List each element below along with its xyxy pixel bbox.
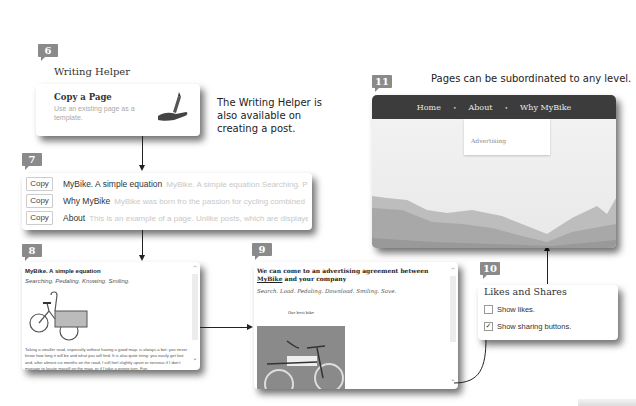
show-likes-option[interactable]: Show likes. [484, 305, 535, 314]
advertising-title-text: We can come to an advertising agreement … [257, 267, 428, 274]
show-sharing-label: Show sharing buttons. [497, 322, 571, 331]
nav-separator: • [453, 104, 457, 111]
copy-page-option-title[interactable]: Copy a Page [54, 92, 112, 102]
step-badge-9: 9 [252, 243, 272, 256]
copy-button[interactable]: Copy [26, 211, 53, 225]
copy-row: Copy About This is an example of a page.… [26, 210, 308, 226]
image-caption: Our best bike [257, 310, 345, 315]
advertising-title-text-end: and your company [282, 275, 346, 282]
step-badge-11: 11 [372, 75, 392, 88]
mountains-image [372, 188, 616, 248]
connector-6-7 [142, 136, 143, 166]
advertising-subtitle: Search. Load. Pedaling. Download. Smilin… [257, 288, 396, 294]
show-sharing-checkbox[interactable]: ✓ [484, 322, 493, 331]
advertising-preview-panel: We can come to an advertising agreement … [254, 262, 458, 389]
writing-helper-callout: The Writing Helper is also available on … [217, 96, 337, 135]
preview-subtitle: Searching. Pedaling. Knowing. Smiling. [25, 278, 130, 284]
hand-pencil-icon[interactable] [154, 90, 190, 124]
writing-helper-title: Writing Helper [54, 66, 130, 77]
arrow-7-8 [139, 255, 145, 261]
page-excerpt: MyBike. A simple equation Searching. Ped… [166, 180, 308, 189]
copy-page-option-desc: Use an existing page as a template. [54, 104, 136, 122]
page-excerpt: MyBike was born fro the passion for cycl… [114, 197, 305, 206]
connector-7-8 [142, 230, 143, 256]
show-sharing-option[interactable]: ✓ Show sharing buttons. [484, 322, 571, 331]
scroll-up-arrow[interactable]: ^ [450, 266, 456, 273]
likes-shares-panel: Likes and Shares Show likes. ✓ Show shar… [478, 285, 618, 340]
about-submenu: Advertising [464, 119, 550, 155]
page-preview-panel: MyBike. A simple equation Searching. Ped… [22, 262, 200, 370]
arrow-6-7 [139, 165, 145, 171]
page-title: Why MyBike [63, 196, 110, 206]
step-badge-10: 10 [480, 262, 500, 275]
nav-about[interactable]: About [468, 103, 492, 112]
nav-why-mybike[interactable]: Why MyBike [520, 103, 571, 112]
vintage-bike-image [257, 326, 345, 389]
show-likes-label: Show likes. [497, 305, 535, 314]
page-title: MyBike. A simple equation [63, 179, 162, 189]
connector-10-11 [547, 250, 548, 284]
nav-separator: • [505, 104, 509, 111]
likes-shares-title: Likes and Shares [484, 286, 567, 297]
copy-page-list: Copy MyBike. A simple equation MyBike. A… [22, 173, 312, 230]
scroll-up-arrow[interactable]: ^ [192, 264, 198, 271]
preview-title: MyBike. A simple equation [25, 268, 101, 274]
cargo-bike-image [25, 289, 93, 344]
copy-row: Copy Why MyBike MyBike was born fro the … [26, 193, 308, 209]
page-title: About [63, 213, 85, 223]
mybike-link[interactable]: MyBike [257, 275, 282, 282]
writing-helper-panel: Copy a Page Use an existing page as a te… [36, 84, 200, 136]
scrollbar-thumb[interactable] [192, 274, 198, 340]
scroll-down-arrow[interactable]: ⌄ [192, 354, 198, 361]
advertising-title: We can come to an advertising agreement … [257, 267, 437, 283]
copy-row: Copy MyBike. A simple equation MyBike. A… [26, 176, 308, 192]
site-nav-bar: Home • About • Why MyBike [372, 95, 616, 119]
step-badge-7: 7 [22, 153, 42, 166]
site-preview-panel: Home • About • Why MyBike Advertising [372, 95, 616, 248]
partial-panel-edge [578, 399, 636, 406]
show-likes-checkbox[interactable] [484, 305, 493, 314]
step-badge-6: 6 [38, 44, 58, 57]
submenu-advertising[interactable]: Advertising [471, 137, 506, 144]
arrow-8-9 [247, 324, 253, 330]
copy-button[interactable]: Copy [26, 177, 53, 191]
connector-8-9 [200, 327, 248, 328]
pages-callout: Pages can be subordinated to any level. [431, 72, 631, 85]
step-badge-8: 8 [22, 244, 42, 257]
page-excerpt: This is an example of a page. Unlike pos… [89, 214, 308, 223]
copy-button[interactable]: Copy [26, 194, 53, 208]
nav-home[interactable]: Home [417, 103, 441, 112]
preview-body: Taking a smaller road, especially withou… [25, 347, 190, 370]
